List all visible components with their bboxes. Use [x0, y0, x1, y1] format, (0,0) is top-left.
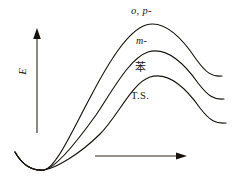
curve-m	[15, 51, 224, 170]
curve-label-m: m-	[136, 36, 147, 46]
y-axis-label: E	[17, 68, 28, 75]
up-arrow-icon	[33, 28, 41, 39]
curve-group	[15, 24, 226, 170]
energy-profile-figure: o, p- m- 苯 T.S. E	[0, 0, 251, 181]
curve-label-ts: T.S.	[131, 91, 149, 102]
curve-label-benzene: 苯	[135, 62, 146, 73]
y-axis-group	[33, 28, 41, 133]
x-axis-group	[95, 152, 187, 159]
curve-label-op: o, p-	[131, 6, 152, 17]
right-arrow-icon	[176, 152, 187, 159]
diagram-canvas	[0, 0, 251, 181]
